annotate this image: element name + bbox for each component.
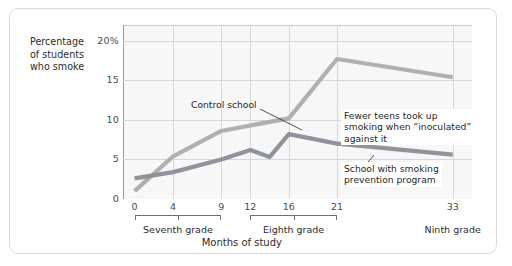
y-tick-label-20pct: 20% — [79, 35, 119, 46]
x-tick-label-16: 16 — [272, 201, 306, 212]
x-tick-label-33: 33 — [436, 201, 470, 212]
y-axis-line — [123, 25, 124, 199]
grade-bracket — [135, 215, 222, 222]
y-tick-label-5: 5 — [79, 153, 119, 164]
annotation-control-school: Control school — [191, 99, 257, 110]
gridline-vertical — [221, 25, 222, 199]
y-tick-label-15: 15 — [79, 74, 119, 85]
grade-label: Eighth grade — [263, 224, 324, 235]
gridline-vertical — [250, 25, 251, 199]
plot-top-border — [123, 25, 472, 26]
annotation-inoculated-callout: Fewer teens took up smoking when “inocul… — [341, 109, 474, 145]
x-tick-label-0: 0 — [118, 201, 152, 212]
x-tick-label-12: 12 — [233, 201, 267, 212]
x-axis-title: Months of study — [202, 237, 282, 248]
y-tick-label-0: 0 — [79, 193, 119, 204]
grade-label: Seventh grade — [143, 224, 213, 235]
grade-bracket — [250, 215, 337, 222]
gridline-horizontal — [123, 41, 472, 42]
grade-label: Ninth grade — [425, 224, 481, 235]
gridline-horizontal — [123, 159, 472, 160]
annotation-prevention-program: School with smoking prevention program — [341, 162, 442, 187]
x-tick-label-4: 4 — [156, 201, 190, 212]
x-tick-label-21: 21 — [320, 201, 354, 212]
gridline-vertical — [173, 25, 174, 199]
y-axis-ticks: 05101520% — [73, 25, 119, 199]
x-axis-ticks: 04912162133 — [123, 201, 472, 215]
grade-bracket-tail — [294, 216, 295, 220]
gridline-vertical — [289, 25, 290, 199]
y-tick-label-10: 10 — [79, 114, 119, 125]
gridline-horizontal — [123, 80, 472, 81]
gridline-vertical — [337, 25, 338, 199]
chart-figure: Percentageof studentswho smoke 05101520%… — [9, 8, 497, 254]
grade-bracket-tail — [178, 216, 179, 220]
